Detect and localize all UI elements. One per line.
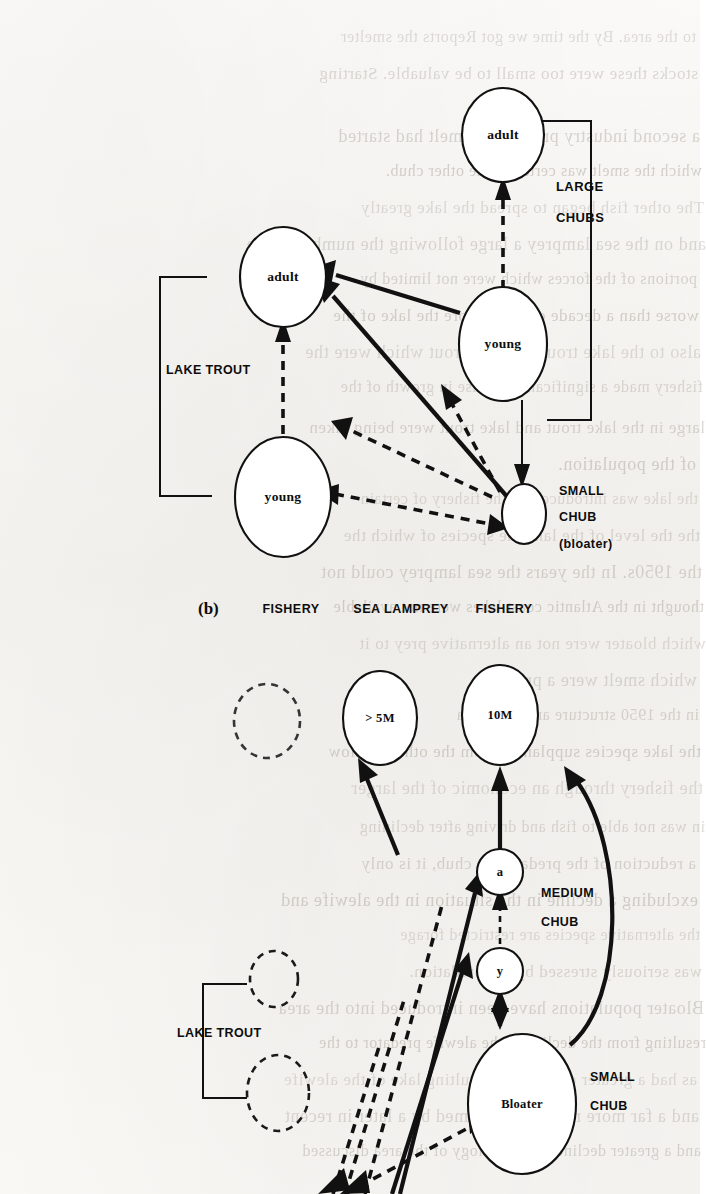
large-chubs-label-line1: LARGE xyxy=(556,179,604,194)
node-10m[interactable]: 10M xyxy=(462,665,538,765)
node-lake-trout-young-label: young xyxy=(265,489,302,504)
edge-chub-young-to-small-chub xyxy=(514,400,530,488)
edge-lower-to-y xyxy=(392,952,473,1194)
edge-bloater-to-10m xyxy=(564,766,612,1045)
edge-lt-young-to-lt-adult xyxy=(275,318,291,450)
node-chub-young-label: young xyxy=(485,336,522,351)
edge-bottom-left-heads xyxy=(318,1168,370,1194)
lake-trout-label-b: LAKE TROUT xyxy=(166,363,251,377)
node-chub-adult[interactable]: adult xyxy=(462,88,544,182)
edge-small-chub-to-lt-young xyxy=(331,417,492,497)
node-small-chub[interactable] xyxy=(502,484,546,544)
small-chub-c-label-line2: CHUB xyxy=(590,1099,628,1113)
node-chub-young[interactable]: young xyxy=(459,287,547,401)
lake-trout-bracket-c xyxy=(203,984,247,1098)
panel-id-b: (b) xyxy=(198,599,219,618)
figure-c: LAKE TROUT xyxy=(177,665,635,1194)
small-chub-label-line2: CHUB xyxy=(559,510,597,524)
medium-chub-label-line1: MEDIUM xyxy=(541,886,594,900)
node-bloater[interactable]: Bloater xyxy=(468,1034,576,1174)
node-y[interactable]: y xyxy=(477,948,523,994)
node-chub-adult-label: adult xyxy=(487,127,519,142)
node-gt5m-label: > 5M xyxy=(365,711,395,725)
lake-trout-bracket-b xyxy=(160,277,212,496)
figure-b: LARGE CHUBS LAKE TROUT xyxy=(160,88,613,618)
node-lake-trout-young[interactable]: young xyxy=(235,437,331,557)
node-bloater-label: Bloater xyxy=(501,1097,543,1111)
node-a[interactable]: a xyxy=(477,849,523,895)
large-chubs-bracket xyxy=(540,121,591,420)
small-chub-c-label-line1: SMALL xyxy=(590,1070,635,1084)
node-a-label: a xyxy=(497,865,504,879)
node-lake-trout-adult-label: adult xyxy=(267,269,299,284)
edge-small-chub-to-chub-young xyxy=(441,384,500,492)
edge-a-to-gt5m xyxy=(358,758,398,855)
edge-a-to-10m xyxy=(491,766,509,853)
edge-lower-dashed-fan-2 xyxy=(345,1000,404,1194)
node-y-label: y xyxy=(497,964,504,978)
edge-chub-young-to-chub-adult xyxy=(495,176,511,289)
small-chub-label-line1: SMALL xyxy=(559,484,604,498)
medium-chub-label-line2: CHUB xyxy=(541,915,579,929)
node-lake-trout-c-lower xyxy=(247,1055,309,1131)
bottom-label-sea-lamprey: SEA LAMPREY xyxy=(353,602,448,616)
node-gt5m[interactable]: > 5M xyxy=(343,671,417,765)
edge-lt-young-to-small-chub xyxy=(316,484,509,535)
node-10m-label: 10M xyxy=(487,708,512,722)
bottom-label-fishery-right: FISHERY xyxy=(475,602,532,616)
large-chubs-label-line2: CHUBS xyxy=(556,210,604,225)
lake-trout-label-c: LAKE TROUT xyxy=(177,1026,262,1040)
node-lake-trout-c-upper xyxy=(250,951,298,1007)
small-chub-label-line3: (bloater) xyxy=(559,537,613,551)
node-faded-circle-top xyxy=(234,684,300,758)
node-lake-trout-adult[interactable]: adult xyxy=(240,227,326,327)
bottom-label-fishery-left: FISHERY xyxy=(262,602,319,616)
